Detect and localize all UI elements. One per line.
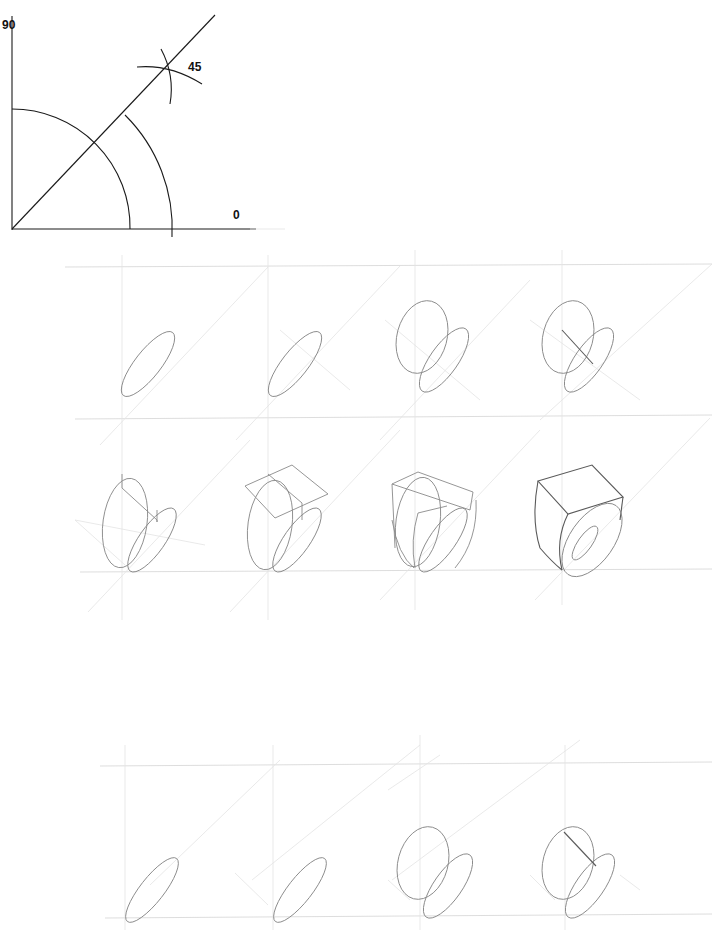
lower-grid <box>0 0 726 930</box>
ring-construction-diagram: 90 45 0 <box>0 0 726 930</box>
lower-step-3-sketch <box>389 821 481 925</box>
lower-step-4-sketch <box>534 821 623 925</box>
